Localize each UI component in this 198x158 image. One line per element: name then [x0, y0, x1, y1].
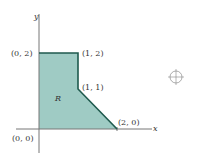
crosshair-icon — [168, 69, 184, 85]
region-diagram: y x (0, 2) (1, 2) (1, 1) (2, 0) (0, 0) R — [0, 0, 198, 158]
x-axis-label: x — [153, 124, 158, 133]
vertex-label-0-0: (0, 0) — [12, 134, 34, 143]
y-axis-label: y — [33, 12, 39, 21]
region-label: R — [54, 94, 61, 103]
vertex-label-0-2: (0, 2) — [11, 49, 33, 58]
vertex-label-1-2: (1, 2) — [82, 49, 104, 58]
vertex-label-2-0: (2, 0) — [118, 118, 140, 127]
vertex-label-1-1: (1, 1) — [82, 83, 104, 92]
